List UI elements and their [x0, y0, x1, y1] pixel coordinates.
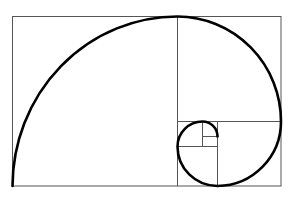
outer-rectangle — [13, 17, 282, 187]
golden-spiral-figure — [0, 0, 295, 203]
golden-rectangle-grid — [13, 17, 282, 187]
golden-spiral-curve — [13, 17, 282, 187]
